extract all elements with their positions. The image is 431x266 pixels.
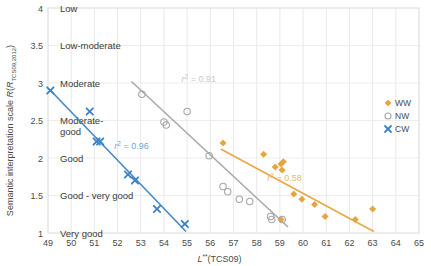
x-tick-label: 53 bbox=[136, 238, 146, 248]
semantic-category-label: good bbox=[60, 126, 81, 137]
chart-svg: 495051525354555657585960616263646511.522… bbox=[0, 0, 431, 266]
semantic-category-label: Good bbox=[60, 153, 83, 164]
x-tick-label: 51 bbox=[89, 238, 99, 248]
x-tick-label: 62 bbox=[344, 238, 354, 248]
legend-label-ww: WW bbox=[395, 98, 411, 108]
y-tick-label: 2.5 bbox=[30, 116, 43, 126]
semantic-category-label: Moderate bbox=[60, 78, 100, 89]
x-axis-title: L**(TCS09) bbox=[197, 253, 241, 265]
y-axis-title: Semantic interpretation scale R(RTCS09,2… bbox=[5, 45, 17, 216]
x-tick-label: 60 bbox=[298, 238, 308, 248]
x-tick-label: 59 bbox=[275, 238, 285, 248]
semantic-category-label: Good - very good bbox=[60, 190, 133, 201]
semantic-category-label: Very good bbox=[60, 228, 103, 239]
x-tick-label: 61 bbox=[321, 238, 331, 248]
semantic-category-label: Low bbox=[60, 3, 78, 14]
x-tick-label: 63 bbox=[368, 238, 378, 248]
x-tick-label: 52 bbox=[113, 238, 123, 248]
x-tick-label: 57 bbox=[228, 238, 238, 248]
x-tick-label: 56 bbox=[205, 238, 215, 248]
x-tick-label: 58 bbox=[252, 238, 262, 248]
y-tick-label: 1 bbox=[38, 229, 43, 239]
legend-label-cw: CW bbox=[395, 124, 409, 134]
y-tick-label: 3.5 bbox=[30, 41, 43, 51]
y-tick-label: 4 bbox=[38, 4, 43, 14]
y-tick-label: 1.5 bbox=[30, 191, 43, 201]
svg-text:Semantic interpretation scale: Semantic interpretation scale R(RTCS09,2… bbox=[5, 45, 17, 216]
semantic-category-label: Low-moderate bbox=[60, 40, 121, 51]
x-tick-label: 65 bbox=[414, 238, 424, 248]
legend-label-nw: NW bbox=[395, 111, 409, 121]
x-tick-label: 55 bbox=[182, 238, 192, 248]
x-tick-label: 64 bbox=[391, 238, 401, 248]
x-tick-label: 50 bbox=[66, 238, 76, 248]
y-tick-label: 2 bbox=[38, 154, 43, 164]
scatter-chart-figure: 495051525354555657585960616263646511.522… bbox=[0, 0, 431, 266]
x-tick-label: 49 bbox=[43, 238, 53, 248]
x-tick-label: 54 bbox=[159, 238, 169, 248]
semantic-category-label: Moderate- bbox=[60, 115, 103, 126]
y-tick-label: 3 bbox=[38, 79, 43, 89]
